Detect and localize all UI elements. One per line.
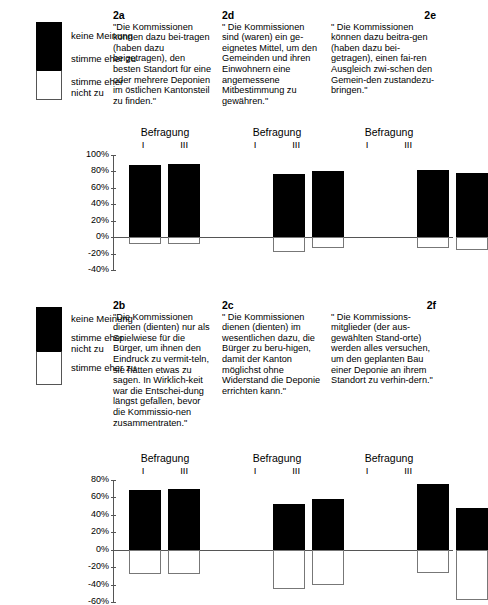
bar-segment-positive bbox=[417, 170, 449, 237]
bar-2d-wave-III bbox=[312, 155, 344, 270]
wave-label-iii: III bbox=[292, 139, 300, 150]
upper-question-2a: 2a "Die Kommissionen können dazu bei-tra… bbox=[113, 10, 215, 106]
bar-2f-wave-III bbox=[456, 480, 488, 602]
bar-2e-wave-III bbox=[456, 155, 488, 270]
group-header-label: Befragung bbox=[124, 126, 206, 138]
question-text-2a: "Die Kommissionen können dazu bei-tragen… bbox=[113, 22, 215, 107]
y-axis-tick-label: 80% bbox=[65, 475, 109, 484]
y-axis-tick bbox=[111, 602, 116, 603]
group-header-label: Befragung bbox=[236, 126, 318, 138]
lower-plot-area: 80%60%40%20%0%-20%-40%-60% bbox=[0, 480, 453, 602]
legend-swatch-dark bbox=[36, 307, 62, 351]
y-axis-tick-label: 60% bbox=[65, 183, 109, 192]
legend-label-stimme-eher-nicht-zu-l2: nicht zu bbox=[71, 343, 104, 354]
y-axis-tick-label: -20% bbox=[65, 249, 109, 258]
wave-label-i: I bbox=[142, 465, 145, 476]
bar-segment-positive bbox=[312, 499, 344, 550]
lower-group-header-3: Befragung I III bbox=[348, 452, 430, 476]
lower-legend-swatch-bar bbox=[36, 307, 62, 385]
upper-plot-area: 100%80%60%40%20%0%-20%-40% bbox=[0, 155, 453, 270]
bar-segment-negative bbox=[129, 237, 161, 244]
wave-label-i: I bbox=[366, 139, 369, 150]
bar-segment-positive bbox=[168, 489, 200, 550]
y-axis-tick bbox=[111, 221, 116, 222]
bar-2d-wave-I bbox=[273, 155, 305, 270]
y-axis-tick bbox=[111, 480, 116, 481]
bar-segment-negative bbox=[417, 237, 449, 248]
group-header-label: Befragung bbox=[348, 452, 430, 464]
upper-group-header-3: Befragung I III bbox=[348, 126, 430, 150]
y-axis-tick-label: -60% bbox=[65, 597, 109, 605]
y-axis-tick bbox=[111, 204, 116, 205]
legend-swatch-light bbox=[36, 70, 62, 100]
legend-swatch-light bbox=[36, 351, 62, 385]
bar-segment-negative bbox=[456, 550, 488, 601]
y-axis-tick-label: 20% bbox=[65, 527, 109, 536]
bar-2f-wave-I bbox=[417, 480, 449, 602]
bar-segment-positive bbox=[312, 171, 344, 238]
legend-label-stimme-eher-nicht-zu-l2: nicht zu bbox=[71, 87, 104, 98]
y-axis-tick-label: -40% bbox=[65, 580, 109, 589]
bar-2b-wave-I bbox=[129, 480, 161, 602]
bar-segment-negative bbox=[312, 237, 344, 248]
y-axis-tick bbox=[111, 550, 116, 551]
y-axis-tick-label: 40% bbox=[65, 199, 109, 208]
lower-chart-panel: keine Meinung stimme eher nicht zu stimm… bbox=[0, 292, 453, 605]
lower-question-2c: 2c " Die Kommissionen dienen (dienten) i… bbox=[222, 300, 322, 396]
bar-segment-negative bbox=[312, 550, 344, 585]
bar-2a-wave-III bbox=[168, 155, 200, 270]
y-axis-tick bbox=[111, 254, 116, 255]
y-axis-tick bbox=[111, 497, 116, 498]
wave-label-i: I bbox=[366, 465, 369, 476]
bar-segment-positive bbox=[129, 490, 161, 549]
bar-2a-wave-I bbox=[129, 155, 161, 270]
y-axis-tick-label: 0% bbox=[65, 545, 109, 554]
wave-label-iii: III bbox=[292, 465, 300, 476]
wave-label-iii: III bbox=[180, 139, 188, 150]
question-text-2d: " Die Kommissionen sind (waren) ein ge-e… bbox=[222, 22, 322, 107]
upper-group-header-1: Befragung I III bbox=[124, 126, 206, 150]
y-axis-tick-label: -40% bbox=[65, 265, 109, 274]
bar-segment-negative bbox=[417, 550, 449, 574]
bar-segment-positive bbox=[273, 504, 305, 549]
bar-2c-wave-I bbox=[273, 480, 305, 602]
y-axis-tick bbox=[111, 532, 116, 533]
y-axis-tick bbox=[111, 188, 116, 189]
group-header-label: Befragung bbox=[348, 126, 430, 138]
wave-label-i: I bbox=[254, 465, 257, 476]
wave-label-i: I bbox=[254, 139, 257, 150]
lower-question-2f: 2f " Die Kommissions-mitglieder (der aus… bbox=[331, 300, 436, 386]
bar-segment-negative bbox=[168, 237, 200, 244]
y-axis-tick bbox=[111, 171, 116, 172]
wave-label-iii: III bbox=[180, 465, 188, 476]
wave-label-iii: III bbox=[404, 465, 412, 476]
group-header-label: Befragung bbox=[236, 452, 318, 464]
bar-segment-negative bbox=[456, 237, 488, 250]
question-text-2f: " Die Kommissions-mitglieder (der aus-ge… bbox=[331, 312, 436, 386]
question-code-2f: 2f bbox=[331, 300, 436, 311]
wave-label-i: I bbox=[142, 139, 145, 150]
bar-segment-negative bbox=[168, 550, 200, 574]
y-axis-tick-label: 60% bbox=[65, 492, 109, 501]
y-axis-tick-label: 100% bbox=[65, 150, 109, 159]
bar-segment-negative bbox=[129, 550, 161, 574]
question-text-2e: " Die Kommissionen können dazu beitra-ge… bbox=[331, 22, 436, 96]
question-code-2a: 2a bbox=[113, 10, 215, 21]
bar-2b-wave-III bbox=[168, 480, 200, 602]
upper-group-header-2: Befragung I III bbox=[236, 126, 318, 150]
y-axis-tick bbox=[111, 155, 116, 156]
y-axis-tick bbox=[111, 515, 116, 516]
y-axis-tick-label: 80% bbox=[65, 166, 109, 175]
upper-legend-swatch-bar bbox=[36, 22, 62, 100]
bar-segment-negative bbox=[273, 237, 305, 252]
group-header-label: Befragung bbox=[124, 452, 206, 464]
y-axis-tick-label: 40% bbox=[65, 510, 109, 519]
bar-segment-positive bbox=[273, 174, 305, 237]
question-code-2c: 2c bbox=[222, 300, 322, 311]
y-axis-tick bbox=[111, 237, 116, 238]
wave-label-iii: III bbox=[404, 139, 412, 150]
upper-question-2e: 2e " Die Kommissionen können dazu beitra… bbox=[331, 10, 436, 96]
question-text-2c: " Die Kommissionen dienen (dienten) im w… bbox=[222, 312, 322, 397]
question-text-2b: "Die Kommissionen dienen (dienten) nur a… bbox=[113, 312, 215, 429]
upper-chart-panel: keine Meinung stimme eher zu stimme eher… bbox=[0, 0, 453, 300]
